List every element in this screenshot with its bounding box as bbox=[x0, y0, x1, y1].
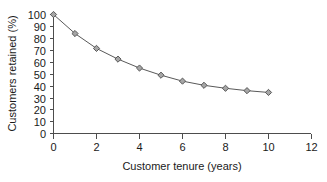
y-tick-label-0: 0 bbox=[40, 128, 46, 140]
x-axis-title: Customer tenure (years) bbox=[122, 160, 241, 172]
y-tick-label-70: 70 bbox=[34, 45, 46, 57]
y-tick-label-100: 100 bbox=[28, 9, 46, 21]
x-tick-label-10: 10 bbox=[262, 141, 274, 153]
y-tick-label-20: 20 bbox=[34, 104, 46, 116]
x-tick-label-12: 12 bbox=[305, 141, 317, 153]
x-tick-label-2: 2 bbox=[93, 141, 99, 153]
y-tick-label-90: 90 bbox=[34, 21, 46, 33]
x-tick-label-4: 4 bbox=[136, 141, 142, 153]
x-tick-label-8: 8 bbox=[222, 141, 228, 153]
y-tick-label-50: 50 bbox=[34, 69, 46, 81]
chart-figure: 100 90 80 70 60 50 40 30 20 10 0 0 2 4 6… bbox=[0, 0, 327, 182]
y-tick-label-40: 40 bbox=[34, 81, 46, 93]
y-tick-label-80: 80 bbox=[34, 33, 46, 45]
retention-line-chart: 100 90 80 70 60 50 40 30 20 10 0 0 2 4 6… bbox=[0, 0, 327, 182]
y-tick-label-10: 10 bbox=[34, 116, 46, 128]
x-tick-label-0: 0 bbox=[50, 141, 56, 153]
chart-background bbox=[0, 0, 327, 182]
x-tick-label-6: 6 bbox=[179, 141, 185, 153]
y-tick-label-60: 60 bbox=[34, 57, 46, 69]
y-axis-title: Customers retained (%) bbox=[6, 15, 18, 131]
